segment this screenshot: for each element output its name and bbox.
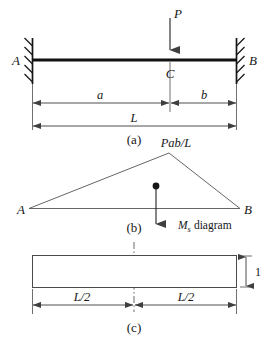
dimension-extension-lines-c [33, 289, 237, 314]
fixed-support-right-icon [237, 38, 245, 84]
beam-rectangle [33, 256, 237, 288]
beam-diagram-svg: A B P C a b L (a) A B Pab/L [0, 0, 276, 356]
label-half-l-right: L/2 [177, 290, 195, 304]
ms-diagram-label: Msdiagram [177, 219, 232, 234]
fixed-support-left-icon [25, 38, 33, 84]
label-support-a: A [11, 53, 20, 68]
label-ms-a: A [16, 202, 25, 217]
label-half-l-left: L/2 [73, 290, 91, 304]
label-load-p: P [173, 6, 182, 21]
unit-load-indicator [153, 183, 160, 224]
caption-part-c: (c) [127, 320, 141, 335]
ms-subscript: s [188, 224, 192, 234]
label-point-c: C [166, 66, 175, 81]
figure-root: A B P C a b L (a) A B Pab/L [0, 0, 276, 356]
ms-left-slope [29, 153, 169, 209]
dimension-depth [240, 256, 252, 287]
label-depth-one: 1 [255, 265, 261, 279]
label-dim-b: b [201, 88, 207, 102]
label-dim-l: L [130, 111, 138, 125]
part-a-group: A B P C a b L (a) [11, 6, 257, 147]
label-peak-moment: Pab/L [160, 136, 192, 150]
part-b-group: A B Pab/L (b) Msdiagram [16, 136, 252, 235]
label-ms-b: B [244, 202, 252, 217]
label-dim-a: a [97, 88, 103, 102]
caption-part-b: (b) [126, 220, 141, 235]
label-support-b: B [249, 53, 257, 68]
ms-right-slope [169, 153, 240, 209]
svg-text:Msdiagram: Msdiagram [177, 219, 232, 234]
ms-diagram-word: diagram [194, 219, 232, 232]
part-c-group: 1 L/2 L/2 (c) [33, 242, 262, 335]
caption-part-a: (a) [127, 132, 141, 147]
